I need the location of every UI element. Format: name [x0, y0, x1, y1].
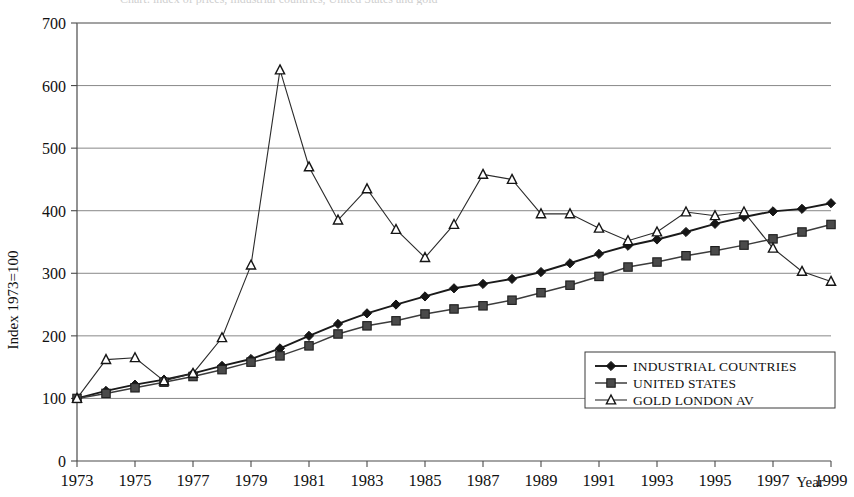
data-point-triangle-1993 — [652, 227, 661, 236]
legend-marker-1 — [607, 379, 615, 387]
y-tick-label-700: 700 — [42, 15, 66, 32]
x-tick-label-1973: 1973 — [61, 471, 94, 490]
line-chart: 0100200300400500600700 19731975197719791… — [0, 0, 854, 497]
data-point-diamond-1981 — [304, 331, 313, 340]
data-point-diamond-1990 — [565, 259, 574, 268]
data-point-square-1984 — [392, 317, 400, 325]
data-point-diamond-1982 — [333, 319, 342, 328]
data-point-triangle-1981 — [304, 162, 313, 171]
data-point-square-1985 — [421, 310, 429, 318]
data-point-triangle-1978 — [217, 333, 226, 342]
data-point-triangle-1991 — [594, 223, 603, 232]
y-tick-label-500: 500 — [42, 140, 66, 157]
data-point-square-1980 — [276, 352, 284, 360]
data-point-square-1981 — [305, 342, 313, 350]
y-axis-title: Index 1973=100 — [5, 251, 21, 350]
data-point-diamond-1989 — [536, 267, 545, 276]
x-tick-label-1975: 1975 — [119, 471, 152, 490]
data-point-diamond-1997 — [768, 207, 777, 216]
data-point-diamond-1987 — [478, 279, 487, 288]
data-point-triangle-1986 — [449, 219, 458, 228]
legend-label-2: GOLD LONDON AV — [633, 393, 754, 408]
x-tick-label-1981: 1981 — [293, 471, 326, 490]
y-tick-label-0: 0 — [58, 453, 66, 470]
data-point-triangle-1994 — [681, 207, 690, 216]
data-point-triangle-1996 — [739, 207, 748, 216]
data-point-square-1983 — [363, 322, 371, 330]
x-tick-label-1991: 1991 — [583, 471, 616, 490]
data-point-triangle-1987 — [478, 169, 487, 178]
data-point-diamond-1984 — [391, 300, 400, 309]
data-point-square-1991 — [595, 272, 603, 280]
x-tick-label-1977: 1977 — [177, 471, 210, 490]
data-point-square-1979 — [247, 358, 255, 366]
series-line-triangle — [77, 70, 831, 399]
x-tick-label-1987: 1987 — [467, 471, 500, 490]
data-point-square-1974 — [102, 389, 110, 397]
data-point-square-1990 — [566, 281, 574, 289]
data-point-square-1987 — [479, 302, 487, 310]
y-axis-tick-labels: 0100200300400500600700 — [42, 15, 66, 470]
x-tick-label-1993: 1993 — [641, 471, 674, 490]
data-point-square-1975 — [131, 384, 139, 392]
y-tick-label-100: 100 — [42, 390, 66, 407]
data-point-square-1994 — [682, 252, 690, 260]
chart-legend: INDUSTRIAL COUNTRIESUNITED STATESGOLD LO… — [585, 352, 835, 408]
chart-figure: Chart: index of prices, industrial count… — [0, 0, 854, 497]
data-point-square-1986 — [450, 305, 458, 313]
data-point-square-1998 — [798, 228, 806, 236]
x-tick-label-1985: 1985 — [409, 471, 442, 490]
x-tick-label-1997: 1997 — [757, 471, 790, 490]
data-point-square-1982 — [334, 330, 342, 338]
data-point-diamond-1985 — [420, 292, 429, 301]
data-point-triangle-1980 — [275, 65, 284, 74]
legend-label-1: UNITED STATES — [633, 376, 736, 391]
data-point-diamond-1986 — [449, 284, 458, 293]
gridlines — [77, 23, 831, 398]
data-point-square-1999 — [827, 220, 835, 228]
data-point-triangle-1998 — [797, 266, 806, 275]
data-point-triangle-1975 — [130, 353, 139, 362]
data-point-square-1993 — [653, 258, 661, 266]
x-tick-label-1995: 1995 — [699, 471, 732, 490]
x-tick-label-1979: 1979 — [235, 471, 268, 490]
data-point-diamond-1994 — [681, 227, 690, 236]
data-point-square-1996 — [740, 241, 748, 249]
data-point-square-1992 — [624, 263, 632, 271]
data-point-diamond-1991 — [594, 249, 603, 258]
x-tick-label-1983: 1983 — [351, 471, 384, 490]
y-tick-label-600: 600 — [42, 78, 66, 95]
data-point-diamond-1999 — [826, 199, 835, 208]
x-tick-label-1989: 1989 — [525, 471, 558, 490]
data-point-diamond-1998 — [797, 204, 806, 213]
legend-label-0: INDUSTRIAL COUNTRIES — [633, 359, 797, 374]
series-triangle — [77, 70, 831, 399]
data-point-square-1978 — [218, 365, 226, 373]
data-point-square-1995 — [711, 247, 719, 255]
data-point-diamond-1983 — [362, 309, 371, 318]
data-point-square-1988 — [508, 296, 516, 304]
y-tick-label-200: 200 — [42, 328, 66, 345]
x-axis-title: Year — [796, 474, 824, 490]
data-point-diamond-1995 — [710, 219, 719, 228]
x-axis-tick-labels: 1973197519771979198119831985198719891991… — [61, 471, 848, 490]
data-point-triangle-1979 — [246, 260, 255, 269]
y-tick-label-400: 400 — [42, 203, 66, 220]
y-tick-label-300: 300 — [42, 265, 66, 282]
data-point-square-1989 — [537, 288, 545, 296]
data-point-triangle-1983 — [362, 184, 371, 193]
data-point-diamond-1988 — [507, 274, 516, 283]
